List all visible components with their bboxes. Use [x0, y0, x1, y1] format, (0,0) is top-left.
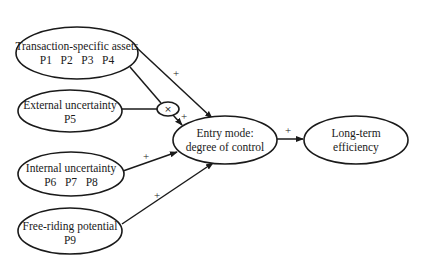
edge-freeriding-to-entry-mode [122, 163, 213, 224]
entry-mode-diagram: + + + + + Transaction-specific assets P1… [0, 0, 421, 268]
sign-assets-entry: + [173, 67, 179, 79]
node-external-uncertainty-label: External uncertainty [23, 99, 117, 112]
node-free-riding-props: P9 [64, 234, 76, 246]
node-external-uncertainty: External uncertainty P5 [18, 90, 122, 132]
node-entry-mode-label: Entry mode: [196, 127, 253, 140]
node-transaction-assets-props: P1 P2 P3 P4 [40, 54, 115, 66]
edge-assets-to-interaction [130, 67, 161, 103]
sign-internal-entry: + [143, 150, 149, 162]
sign-freeriding-entry: + [154, 189, 160, 201]
node-interaction: × [157, 102, 179, 116]
node-internal-uncertainty: Internal uncertainty P6 P7 P8 [18, 152, 124, 196]
node-transaction-assets-label: Transaction-specific assets [15, 40, 139, 53]
sign-entry-longterm: + [285, 124, 291, 136]
node-free-riding: Free-riding potential P9 [18, 208, 122, 254]
edge-internal-to-entry-mode [123, 152, 177, 171]
node-entry-mode: Entry mode: degree of control [173, 116, 277, 164]
sign-interaction-entry: + [181, 110, 187, 122]
node-long-term-efficiency: Long-term efficiency [304, 116, 408, 164]
node-entry-mode-sublabel: degree of control [186, 141, 265, 154]
node-transaction-assets: Transaction-specific assets P1 P2 P3 P4 [15, 27, 139, 79]
interaction-multiply-icon: × [164, 104, 172, 114]
node-free-riding-label: Free-riding potential [23, 220, 118, 233]
node-internal-uncertainty-props: P6 P7 P8 [44, 176, 98, 188]
node-internal-uncertainty-label: Internal uncertainty [26, 162, 117, 175]
node-long-term-sublabel: efficiency [333, 141, 379, 154]
node-external-uncertainty-props: P5 [64, 113, 76, 125]
node-long-term-label: Long-term [331, 127, 380, 140]
